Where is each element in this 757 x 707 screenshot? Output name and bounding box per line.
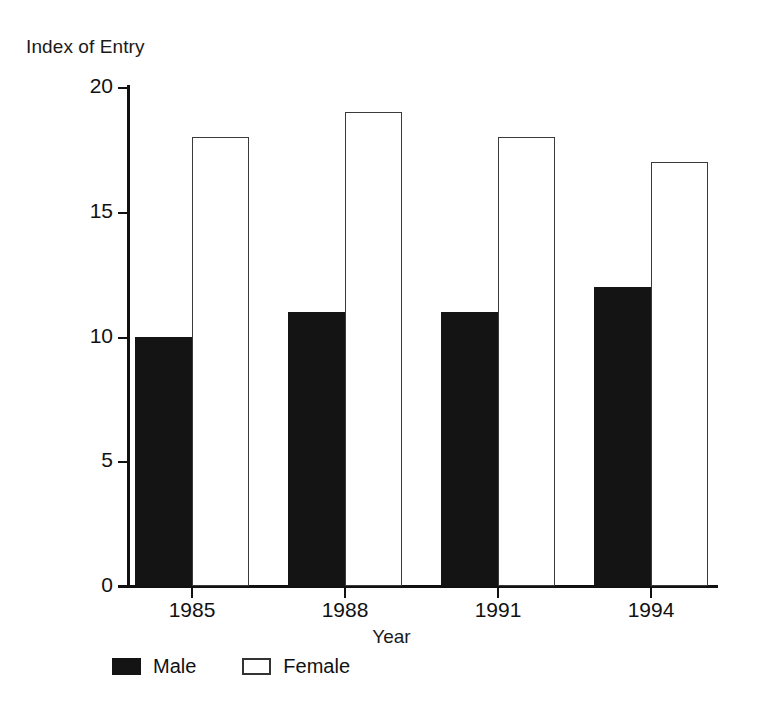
outlined-white-square-icon: [242, 658, 271, 675]
y-axis-tick-mark: [118, 461, 127, 463]
y-axis-tick-mark: [118, 586, 127, 588]
legend-item-female[interactable]: Female: [242, 655, 350, 678]
bar-chart: Index of Entry 05101520 1985198819911994…: [0, 0, 757, 707]
x-axis-tick-mark: [191, 588, 193, 598]
x-axis-tick-mark: [497, 588, 499, 598]
y-axis-tick-mark: [118, 87, 127, 89]
y-axis-tick-label: 15: [90, 199, 113, 223]
chart-legend: Male Female: [112, 655, 350, 678]
y-axis-tick-label: 10: [90, 324, 113, 348]
bar-male-1994: [594, 287, 651, 586]
y-axis-line: [127, 85, 130, 588]
y-axis-tick-label: 20: [90, 74, 113, 98]
plot-area: [131, 87, 715, 586]
x-axis-tick-mark: [650, 588, 652, 598]
bar-male-1991: [441, 312, 498, 586]
x-axis-title-text: Year: [372, 626, 410, 647]
x-axis-tick-label: 1994: [628, 598, 675, 622]
bar-female-1985: [192, 137, 249, 586]
y-axis-tick-mark: [118, 212, 127, 214]
bar-male-1988: [288, 312, 345, 586]
legend-label-female: Female: [283, 655, 350, 678]
bar-female-1988: [345, 112, 402, 586]
x-axis-tick-label: 1985: [169, 598, 216, 622]
x-axis-tick-mark: [344, 588, 346, 598]
y-axis-tick-mark: [118, 337, 127, 339]
filled-black-square-icon: [112, 658, 141, 675]
legend-label-male: Male: [153, 655, 196, 678]
bar-female-1994: [651, 162, 708, 586]
y-axis-tick-label: 5: [101, 448, 113, 472]
x-axis-tick-label: 1988: [322, 598, 369, 622]
bar-male-1985: [135, 337, 192, 587]
bar-female-1991: [498, 137, 555, 586]
x-axis-tick-label: 1991: [475, 598, 522, 622]
legend-item-male[interactable]: Male: [112, 655, 196, 678]
y-axis-title: Index of Entry: [26, 36, 145, 58]
x-axis-title: Year: [0, 626, 757, 648]
y-axis-tick-label: 0: [101, 573, 113, 597]
